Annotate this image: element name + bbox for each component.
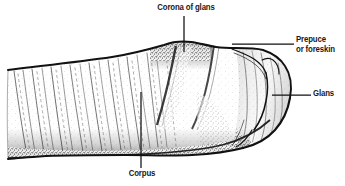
- label-corona-of-glans: Corona of glans: [140, 3, 232, 13]
- shaft-body: [0, 30, 345, 170]
- label-prepuce-line2: or foreskin: [296, 45, 335, 55]
- label-prepuce-or-foreskin: Prepuce or foreskin: [296, 35, 335, 54]
- label-glans: Glans: [313, 89, 334, 99]
- label-corpus: Corpus: [123, 169, 162, 179]
- penis-lateral-view-illustration: [0, 0, 345, 186]
- anatomical-figure: Corona of glans Prepuce or foreskin Glan…: [0, 0, 345, 186]
